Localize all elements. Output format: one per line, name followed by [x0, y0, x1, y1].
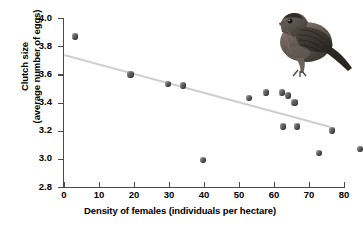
y-tick-label: 3.8 — [0, 40, 52, 51]
data-point — [329, 127, 335, 133]
x-tick-label: 70 — [292, 189, 326, 200]
y-tick-label: 3.6 — [0, 68, 52, 79]
data-point — [263, 89, 269, 95]
y-axis-title: Clutch size (average number of eggs) — [19, 0, 42, 167]
data-point — [279, 89, 285, 95]
data-point — [357, 146, 363, 152]
y-tick-label: 2.8 — [0, 181, 52, 192]
x-axis-title: Density of females (individuals per hect… — [0, 205, 360, 216]
data-point — [180, 82, 186, 88]
y-tick-label: 3.0 — [0, 152, 52, 163]
x-tick-label: 50 — [222, 189, 256, 200]
data-point — [316, 150, 322, 156]
data-point — [294, 123, 300, 129]
x-tick-label: 20 — [117, 189, 151, 200]
x-tick-label: 40 — [187, 189, 221, 200]
x-tick-label: 0 — [47, 189, 81, 200]
data-point — [246, 95, 252, 101]
x-tick-mark — [344, 182, 345, 188]
x-tick-label: 10 — [82, 189, 116, 200]
house-finch-bird-photo — [262, 2, 354, 80]
y-tick-label: 3.4 — [0, 96, 52, 107]
data-point — [127, 71, 133, 77]
x-tick-label: 60 — [257, 189, 291, 200]
data-point — [280, 123, 286, 129]
x-tick-label: 80 — [327, 189, 361, 200]
x-tick-label: 30 — [152, 189, 186, 200]
data-point — [285, 92, 291, 98]
y-axis-title-line2: (average number of eggs) — [30, 0, 42, 167]
y-tick-label: 4.0 — [0, 12, 52, 23]
y-tick-label: 3.2 — [0, 124, 52, 135]
data-point — [200, 157, 206, 163]
data-point — [165, 81, 171, 87]
data-point — [72, 33, 78, 39]
data-point — [291, 99, 297, 105]
